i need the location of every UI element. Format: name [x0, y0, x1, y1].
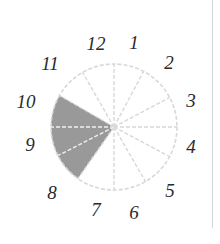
numeral-5: 5 [165, 181, 175, 200]
radial-line [114, 71, 144, 127]
clock-face [0, 0, 220, 244]
numeral-10: 10 [17, 92, 36, 111]
numeral-12: 12 [87, 34, 106, 53]
numeral-7: 7 [91, 200, 101, 219]
right-divider-line [212, 0, 213, 228]
numeral-3: 3 [186, 91, 196, 110]
shaded-sector [51, 96, 114, 179]
numeral-2: 2 [164, 53, 174, 72]
radial-line [114, 127, 170, 157]
clock-diagram: 12 1 2 3 4 5 6 7 8 9 10 11 [0, 0, 220, 244]
numeral-9: 9 [25, 135, 35, 154]
radial-line [114, 127, 146, 182]
radial-line [114, 97, 170, 127]
numeral-8: 8 [47, 183, 57, 202]
shaded-sector-fill [51, 96, 114, 179]
numeral-4: 4 [186, 137, 196, 156]
numeral-11: 11 [41, 54, 59, 73]
numeral-1: 1 [129, 33, 139, 52]
numeral-6: 6 [129, 203, 139, 222]
